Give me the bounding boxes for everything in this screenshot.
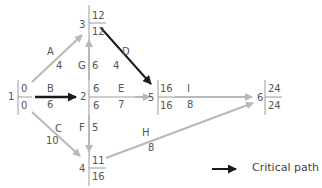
node-2-label: 2: [80, 92, 86, 102]
node-5-label: 5: [148, 93, 154, 103]
node-3-latest: 12: [92, 27, 105, 37]
node-1-latest: 0: [21, 101, 27, 111]
node-6-latest: 24: [268, 101, 281, 111]
legend-critical-path-label: Critical path: [252, 163, 319, 173]
activity-F-name: F: [79, 123, 85, 133]
activity-A-name: A: [47, 47, 54, 57]
node-1-earliest: 0: [21, 84, 27, 94]
node-3-label: 3: [79, 20, 85, 30]
node-5-earliest: 16: [160, 84, 173, 94]
activity-H-name: H: [142, 128, 150, 138]
activity-D-name: D: [122, 47, 130, 57]
node-4-earliest: 11: [92, 156, 105, 166]
node-6-label: 6: [257, 93, 263, 103]
network-diagram: [0, 0, 322, 188]
node-2-earliest: 6: [93, 84, 99, 94]
node-3-earliest: 12: [92, 11, 105, 21]
node-2-latest: 6: [93, 101, 99, 111]
activity-E-name: E: [118, 84, 124, 94]
activity-F-duration: 5: [92, 123, 98, 133]
node-6-earliest: 24: [268, 84, 281, 94]
activity-H-duration: 8: [148, 143, 154, 153]
activity-G-duration: 6: [92, 61, 98, 71]
activity-C-duration: 10: [46, 136, 59, 146]
arrow-H: [106, 103, 253, 158]
node-4-label: 4: [79, 164, 85, 174]
activity-G-name: G: [78, 61, 86, 71]
activity-C-name: C: [55, 124, 62, 134]
arrow-A: [32, 35, 82, 82]
activity-I-duration: 8: [187, 100, 193, 110]
node-1-label: 1: [8, 92, 14, 102]
node-5-latest: 16: [160, 101, 173, 111]
activity-B-duration: 6: [47, 100, 53, 110]
arrow-C: [32, 112, 80, 156]
activity-A-duration: 4: [56, 61, 62, 71]
activity-E-duration: 7: [118, 100, 124, 110]
activity-D-duration: 4: [113, 61, 119, 71]
node-4-latest: 16: [92, 172, 105, 182]
activity-B-name: B: [47, 84, 54, 94]
activity-I-name: I: [187, 84, 190, 94]
